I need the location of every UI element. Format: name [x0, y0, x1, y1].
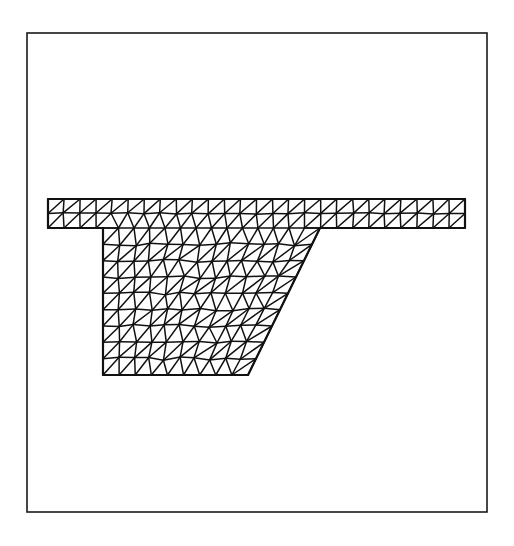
- mesh-edge: [288, 214, 289, 228]
- mesh-edge: [400, 199, 401, 213]
- mesh-edge: [177, 213, 192, 214]
- mesh-edge: [119, 292, 133, 293]
- mesh-edge: [63, 199, 64, 213]
- mesh-edge: [246, 276, 264, 277]
- mesh-edge: [226, 325, 241, 326]
- mesh-edge: [118, 310, 119, 327]
- mesh-edge: [180, 357, 194, 358]
- figure-background: [0, 0, 514, 546]
- mesh-edge: [128, 213, 144, 214]
- mesh-edge: [353, 213, 354, 228]
- mesh-edge: [183, 245, 200, 246]
- mesh-edge: [118, 262, 119, 279]
- mesh-edge: [288, 213, 305, 214]
- mesh-edge: [135, 358, 136, 375]
- mesh-edge: [48, 213, 63, 214]
- mesh-edge: [230, 276, 246, 277]
- mesh-edge: [288, 199, 289, 214]
- mesh-edge: [197, 261, 212, 262]
- mesh-diagram: [0, 0, 514, 546]
- mesh-edge: [103, 326, 119, 327]
- mesh-edge: [144, 213, 160, 214]
- mesh-edge: [242, 261, 258, 262]
- mesh-edge: [400, 213, 401, 228]
- mesh-edge: [167, 276, 184, 277]
- mesh-edge: [240, 199, 241, 213]
- mesh-edge: [103, 342, 120, 343]
- mesh-edge: [111, 213, 128, 214]
- mesh-edge: [63, 213, 64, 228]
- mesh-edge: [211, 293, 225, 294]
- mesh-edge: [134, 261, 135, 277]
- mesh-edge: [200, 244, 217, 245]
- mesh-edge: [273, 293, 288, 294]
- mesh-edge: [384, 199, 385, 214]
- mesh-edge: [195, 293, 211, 294]
- mesh-edge: [384, 213, 400, 214]
- mesh-edge: [240, 359, 256, 360]
- mesh-edge: [240, 213, 257, 214]
- mesh-edge: [273, 214, 274, 228]
- mesh-edge: [103, 244, 120, 245]
- figure-root: [0, 0, 514, 546]
- mesh-edge: [118, 309, 135, 310]
- mesh-edge: [353, 199, 354, 213]
- mesh-edge: [194, 326, 209, 327]
- mesh-edge: [257, 261, 273, 262]
- mesh-edge: [304, 213, 320, 214]
- mesh-edge: [256, 214, 273, 215]
- mesh-edge: [278, 276, 296, 277]
- mesh-edge: [230, 243, 248, 244]
- mesh-edge: [150, 243, 168, 244]
- mesh-edge: [249, 244, 264, 245]
- mesh-edge: [160, 199, 161, 213]
- mesh-edge: [192, 213, 208, 214]
- mesh-edge: [192, 199, 193, 213]
- mesh-edge: [417, 213, 433, 214]
- mesh-edge: [247, 341, 264, 342]
- mesh-edge: [433, 199, 434, 214]
- mesh-edge: [433, 214, 434, 228]
- mesh-edge: [103, 261, 118, 262]
- mesh-edge: [384, 214, 385, 228]
